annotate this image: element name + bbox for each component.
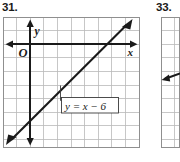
problem-number-33: 33. xyxy=(156,2,171,14)
x-axis-label: x xyxy=(127,46,134,58)
worksheet-page: 31. xyxy=(0,0,180,162)
figure-problem-33 xyxy=(161,17,180,148)
y-axis-label: y xyxy=(33,25,41,38)
origin-label: O xyxy=(19,46,28,60)
coordinate-grid-svg-33 xyxy=(161,17,180,148)
problem-number-31: 31. xyxy=(2,2,17,14)
equation-label: y = x − 6 xyxy=(64,100,107,112)
coordinate-grid-svg-31: y x O y = x − 6 xyxy=(3,17,140,148)
grid-background-33 xyxy=(161,17,180,148)
figure-problem-31: y x O y = x − 6 xyxy=(3,17,140,148)
